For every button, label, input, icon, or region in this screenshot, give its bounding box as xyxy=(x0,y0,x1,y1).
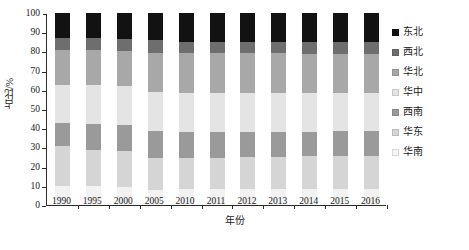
stacked-bar[interactable] xyxy=(117,14,132,205)
bar-segment-西南[interactable] xyxy=(271,132,286,157)
bar-group[interactable] xyxy=(148,14,163,205)
bar-segment-华北[interactable] xyxy=(333,54,348,94)
legend-item[interactable]: 华南 xyxy=(392,142,466,162)
bar-segment-西南[interactable] xyxy=(179,132,194,158)
stacked-bar[interactable] xyxy=(148,14,163,205)
bar-segment-东北[interactable] xyxy=(240,13,255,42)
bar-segment-华中[interactable] xyxy=(86,85,101,124)
bar-group[interactable] xyxy=(55,14,70,205)
stacked-bar[interactable] xyxy=(302,14,317,205)
bar-segment-西北[interactable] xyxy=(240,42,255,54)
bar-segment-西南[interactable] xyxy=(240,132,255,157)
bar-segment-东北[interactable] xyxy=(210,13,225,42)
bar-segment-华中[interactable] xyxy=(117,86,132,125)
bar-segment-西北[interactable] xyxy=(333,42,348,54)
bar-segment-华中[interactable] xyxy=(55,85,70,123)
bar-segment-华北[interactable] xyxy=(210,53,225,93)
stacked-bar[interactable] xyxy=(271,14,286,205)
bar-group[interactable] xyxy=(333,14,348,205)
bar-segment-西北[interactable] xyxy=(364,42,379,54)
bar-segment-华北[interactable] xyxy=(302,54,317,94)
legend-item[interactable]: 东北 xyxy=(392,22,466,42)
bar-segment-华北[interactable] xyxy=(240,53,255,93)
bar-segment-东北[interactable] xyxy=(117,13,132,39)
stacked-bar[interactable] xyxy=(86,14,101,205)
stacked-bar[interactable] xyxy=(364,14,379,205)
stacked-bar[interactable] xyxy=(179,14,194,205)
legend-item[interactable]: 西南 xyxy=(392,102,466,122)
bar-segment-华东[interactable] xyxy=(55,146,70,185)
bar-segment-东北[interactable] xyxy=(148,13,163,40)
bar-segment-华中[interactable] xyxy=(148,92,163,131)
bar-group[interactable] xyxy=(86,14,101,205)
bar-segment-西北[interactable] xyxy=(271,42,286,54)
bar-group[interactable] xyxy=(364,14,379,205)
bar-segment-东北[interactable] xyxy=(55,13,70,38)
x-axis-tick-mark xyxy=(387,205,388,209)
bar-segment-西北[interactable] xyxy=(86,38,101,51)
bar-segment-西南[interactable] xyxy=(302,132,317,157)
bar-segment-东北[interactable] xyxy=(333,13,348,42)
legend-swatch-icon xyxy=(392,69,399,76)
bar-group[interactable] xyxy=(117,14,132,205)
bar-segment-华东[interactable] xyxy=(210,158,225,189)
bar-segment-华中[interactable] xyxy=(302,93,317,132)
bar-segment-东北[interactable] xyxy=(364,13,379,42)
bar-group[interactable] xyxy=(179,14,194,205)
bar-group[interactable] xyxy=(271,14,286,205)
bar-segment-华东[interactable] xyxy=(364,156,379,189)
bar-segment-华东[interactable] xyxy=(148,158,163,190)
bar-segment-东北[interactable] xyxy=(86,13,101,38)
bar-segment-华中[interactable] xyxy=(240,93,255,132)
stacked-bar[interactable] xyxy=(55,14,70,205)
bar-segment-西南[interactable] xyxy=(55,123,70,146)
bar-segment-华东[interactable] xyxy=(333,156,348,189)
bar-segment-西北[interactable] xyxy=(179,42,194,53)
bar-segment-华北[interactable] xyxy=(55,50,70,85)
bar-segment-华北[interactable] xyxy=(117,51,132,86)
legend-item[interactable]: 华东 xyxy=(392,122,466,142)
bar-segment-华东[interactable] xyxy=(179,158,194,189)
bar-group[interactable] xyxy=(210,14,225,205)
bar-segment-华北[interactable] xyxy=(148,53,163,93)
bar-segment-华东[interactable] xyxy=(271,157,286,189)
stacked-bar[interactable] xyxy=(210,14,225,205)
bar-segment-西南[interactable] xyxy=(86,124,101,150)
bar-group[interactable] xyxy=(240,14,255,205)
bar-segment-西北[interactable] xyxy=(148,40,163,53)
y-axis-tick-label: 100 xyxy=(26,9,40,19)
bar-segment-华北[interactable] xyxy=(179,53,194,93)
bar-segment-华东[interactable] xyxy=(302,156,317,188)
bar-segment-华中[interactable] xyxy=(210,93,225,132)
bar-segment-西北[interactable] xyxy=(117,39,132,51)
legend-item[interactable]: 西北 xyxy=(392,42,466,62)
stacked-bar[interactable] xyxy=(240,14,255,205)
bar-segment-西南[interactable] xyxy=(333,131,348,156)
bar-segment-华北[interactable] xyxy=(86,50,101,85)
bar-segment-东北[interactable] xyxy=(271,13,286,42)
bar-segment-西北[interactable] xyxy=(302,42,317,54)
stacked-bar[interactable] xyxy=(333,14,348,205)
bar-segment-华东[interactable] xyxy=(86,150,101,187)
bar-segment-华北[interactable] xyxy=(364,54,379,93)
bar-segment-西南[interactable] xyxy=(148,131,163,157)
bar-segment-华中[interactable] xyxy=(364,93,379,131)
bar-segment-华东[interactable] xyxy=(117,151,132,187)
bar-segment-西北[interactable] xyxy=(210,42,225,53)
bar-segment-东北[interactable] xyxy=(302,13,317,42)
bar-group[interactable] xyxy=(302,14,317,205)
bar-segment-华东[interactable] xyxy=(240,157,255,189)
bar-segment-西南[interactable] xyxy=(364,131,379,155)
bar-segment-西南[interactable] xyxy=(210,132,225,158)
legend-item[interactable]: 华中 xyxy=(392,82,466,102)
bar-segment-华中[interactable] xyxy=(179,93,194,132)
bar-segment-华北[interactable] xyxy=(271,53,286,93)
bar-segment-华中[interactable] xyxy=(271,93,286,132)
bar-segment-华中[interactable] xyxy=(333,93,348,131)
x-axis-tick-label: 2012 xyxy=(237,197,256,207)
bar-segment-西北[interactable] xyxy=(55,38,70,50)
y-axis-tick-label: 40 xyxy=(31,124,41,134)
legend-item[interactable]: 华北 xyxy=(392,62,466,82)
bar-segment-西南[interactable] xyxy=(117,125,132,151)
bar-segment-东北[interactable] xyxy=(179,13,194,42)
